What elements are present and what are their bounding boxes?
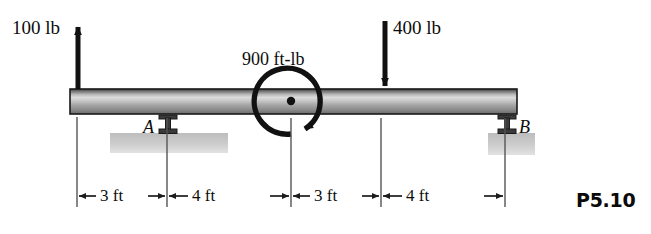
dimension-label-1: 3 ft — [100, 187, 123, 204]
support-label-a: A — [143, 118, 154, 136]
support-label-b: B — [519, 118, 530, 136]
moment-label-900ftlb: 900 ft-lb — [242, 50, 305, 68]
beam-diagram-figure: 100 lb 400 lb 900 ft-lb A B 3 ft 4 ft 3 … — [0, 0, 651, 234]
dimension-extension-lines — [77, 117, 505, 207]
ground-block-a — [110, 133, 228, 153]
dimension-label-3: 3 ft — [314, 187, 337, 204]
support-a-symbol — [159, 115, 177, 134]
dimension-label-4: 4 ft — [406, 187, 429, 204]
figure-number: P5.10 — [576, 191, 635, 210]
load-label-400lb: 400 lb — [393, 18, 441, 37]
support-b-symbol — [498, 115, 516, 134]
load-label-100lb: 100 lb — [12, 18, 60, 37]
dimension-label-2: 4 ft — [192, 187, 215, 204]
